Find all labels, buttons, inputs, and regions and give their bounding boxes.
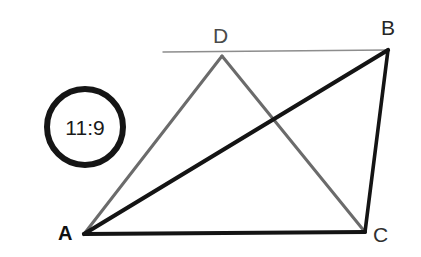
diagram-canvas: 11:9 A B C D — [0, 0, 421, 257]
segment-bc — [365, 50, 388, 232]
construction-lines — [163, 50, 388, 52]
vertex-label-d: D — [213, 25, 228, 46]
segment-dc — [222, 56, 365, 232]
ratio-badge: 11:9 — [44, 86, 126, 168]
vertex-label-b: B — [381, 17, 395, 38]
segment-db-extended — [163, 50, 388, 52]
ratio-badge-label: 11:9 — [65, 117, 104, 138]
vertex-label-a: A — [58, 223, 72, 243]
segment-ac — [84, 232, 365, 234]
vertex-label-c: C — [373, 224, 388, 245]
